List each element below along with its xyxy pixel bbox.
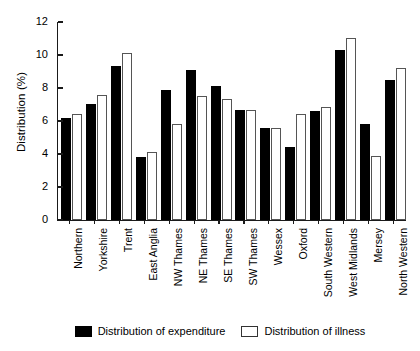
bar-expenditure — [61, 118, 71, 220]
x-axis-tick — [343, 220, 344, 224]
chart-legend: Distribution of expenditureDistribution … — [60, 322, 380, 340]
bar-expenditure — [385, 80, 395, 220]
x-axis-category-label: Northern — [73, 183, 84, 226]
y-axis-tick-label: 2 — [22, 181, 48, 192]
y-axis-tick-label: 8 — [22, 82, 48, 93]
x-axis-tick — [169, 220, 170, 224]
x-axis-category-text: NE Thames — [198, 226, 209, 283]
bar-group — [285, 22, 306, 220]
bar-expenditure — [186, 70, 196, 220]
y-axis-tick — [58, 186, 63, 187]
x-axis-category-text: South Western — [323, 226, 334, 297]
x-axis-category-label: NW Thames — [173, 166, 184, 226]
x-axis-category-label: SW Thames — [248, 166, 259, 226]
x-axis-category-text: Yorkshire — [98, 226, 109, 271]
bar-expenditure — [360, 124, 370, 220]
bar-illness — [122, 53, 132, 220]
y-axis-tick — [58, 21, 63, 22]
x-axis-category-label: North Western — [398, 157, 409, 227]
bar-expenditure — [86, 104, 96, 220]
x-axis-category-label: Mersey — [373, 190, 384, 226]
x-axis-tick-labels: NorthernYorkshireTrentEast AngliaNW Tham… — [57, 226, 406, 318]
y-axis-tick — [58, 87, 63, 88]
bar-group — [111, 22, 132, 220]
y-axis-tick-label: 12 — [22, 16, 48, 27]
x-axis-tick — [393, 220, 394, 224]
x-axis-category-text: Northern — [73, 226, 84, 269]
x-axis-category-text: North Western — [398, 226, 409, 296]
x-axis-category-text: East Anglia — [148, 226, 159, 281]
x-axis-tick — [293, 220, 294, 224]
x-axis-category-label: South Western — [323, 155, 334, 226]
x-axis-category-text: Wessex — [273, 226, 284, 265]
x-axis-tick — [243, 220, 244, 224]
x-axis-category-text: West Midlands — [348, 226, 359, 297]
bar-expenditure — [260, 128, 270, 220]
x-axis-tick — [218, 220, 219, 224]
x-axis-category-label: West Midlands — [348, 155, 359, 226]
legend-item: Distribution of expenditure — [75, 325, 226, 337]
x-axis-category-text: SW Thames — [248, 226, 259, 286]
x-axis-tick — [144, 220, 145, 224]
x-axis-category-text: Oxford — [298, 226, 309, 260]
bar-expenditure — [335, 50, 345, 220]
x-axis-category-text: Mersey — [373, 226, 384, 262]
bar-expenditure — [136, 157, 146, 220]
y-axis-tick — [58, 153, 63, 154]
y-axis-tick — [58, 54, 63, 55]
x-axis-category-label: NE Thames — [198, 169, 209, 226]
y-axis-tick — [58, 219, 63, 220]
x-axis-tick — [69, 220, 70, 224]
y-axis-tick — [58, 120, 63, 121]
x-axis-category-label: Trent — [123, 200, 134, 226]
bar-expenditure — [111, 66, 121, 220]
x-axis-tick — [119, 220, 120, 224]
y-axis-tick-label: 10 — [22, 49, 48, 60]
y-axis-tick-label: 4 — [22, 148, 48, 159]
x-axis-tick — [318, 220, 319, 224]
bar-expenditure — [310, 111, 320, 220]
y-axis-tick-label: 6 — [22, 115, 48, 126]
x-axis-tick — [194, 220, 195, 224]
bar-expenditure — [235, 110, 245, 220]
x-axis-category-label: SE Thames — [223, 169, 234, 226]
x-axis-category-label: Wessex — [273, 187, 284, 226]
x-axis-category-text: SE Thames — [223, 226, 234, 283]
legend-label: Distribution of expenditure — [98, 325, 226, 337]
y-axis-tick-label: 0 — [22, 214, 48, 225]
x-axis-category-label: East Anglia — [148, 171, 159, 226]
x-axis-tick — [268, 220, 269, 224]
x-axis-category-label: Yorkshire — [98, 181, 109, 226]
x-axis-category-label: Oxford — [298, 192, 309, 226]
bar-expenditure — [211, 86, 221, 220]
x-axis-category-text: Trent — [123, 226, 134, 252]
x-axis-tick — [368, 220, 369, 224]
x-axis-category-text: NW Thames — [173, 226, 184, 286]
outlined-white-swatch — [241, 326, 258, 337]
y-axis-tick-labels: 024681012 — [22, 22, 48, 220]
filled-black-swatch — [75, 326, 92, 337]
x-axis-tick — [94, 220, 95, 224]
legend-item: Distribution of illness — [241, 325, 365, 337]
bar-chart-figure: Distribution (%) 024681012 NorthernYorks… — [0, 0, 420, 351]
bar-expenditure — [285, 147, 295, 220]
bar-expenditure — [161, 90, 171, 220]
legend-label: Distribution of illness — [264, 325, 365, 337]
